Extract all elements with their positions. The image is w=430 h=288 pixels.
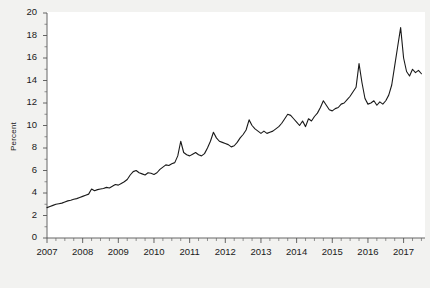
- line-chart: Percent 02468101214161820 20072008200920…: [0, 0, 430, 288]
- chart-plot-area: [0, 0, 430, 288]
- plot-background: [47, 12, 425, 238]
- y-tick-label: 0: [13, 231, 37, 242]
- y-tick-label: 20: [13, 6, 37, 17]
- y-tick-label: 12: [13, 96, 37, 107]
- x-tick-label: 2008: [63, 246, 103, 257]
- x-tick-label: 2015: [312, 246, 352, 257]
- y-tick-label: 10: [13, 119, 37, 130]
- x-tick-label: 2014: [277, 246, 317, 257]
- x-tick-label: 2012: [205, 246, 245, 257]
- y-tick-label: 8: [13, 141, 37, 152]
- x-tick-label: 2007: [27, 246, 67, 257]
- y-tick-label: 6: [13, 164, 37, 175]
- x-tick-label: 2010: [134, 246, 174, 257]
- y-tick-label: 18: [13, 29, 37, 40]
- x-tick-label: 2009: [98, 246, 138, 257]
- y-tick-label: 4: [13, 186, 37, 197]
- x-tick-label: 2011: [170, 246, 210, 257]
- x-tick-label: 2016: [348, 246, 388, 257]
- y-tick-label: 16: [13, 51, 37, 62]
- x-tick-label: 2013: [241, 246, 281, 257]
- y-tick-label: 2: [13, 209, 37, 220]
- y-tick-label: 14: [13, 74, 37, 85]
- x-tick-label: 2017: [384, 246, 424, 257]
